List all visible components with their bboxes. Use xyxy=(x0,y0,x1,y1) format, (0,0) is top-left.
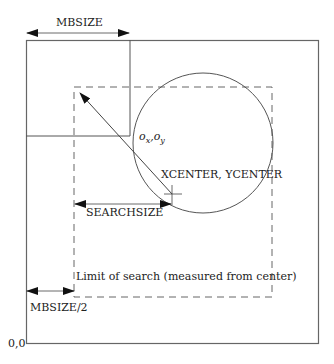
offset-arrow xyxy=(80,93,172,194)
mbsize-label: MBSIZE xyxy=(56,16,103,29)
center-label: XCENTER, YCENTER xyxy=(161,168,283,181)
limit-label: Limit of search (measured from center) xyxy=(76,270,297,283)
coord-origin-label: 0,0 xyxy=(8,337,26,350)
frame-box xyxy=(27,41,319,344)
search-circle xyxy=(133,73,273,213)
mbsize-half-label: MBSIZE/2 xyxy=(30,301,88,314)
searchsize-label: SEARCHSIZE xyxy=(86,206,163,219)
search-diagram: MBSIZE ox,oy XCENTER, YCENTER SEARCHSIZE… xyxy=(0,0,334,364)
origin-offset-label: ox,oy xyxy=(139,130,165,145)
